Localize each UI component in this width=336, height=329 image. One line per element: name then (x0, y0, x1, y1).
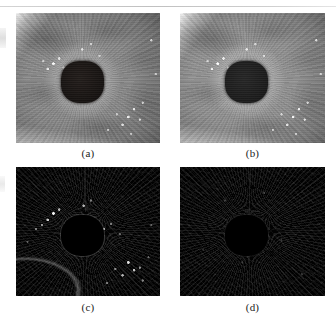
figure-caption-d: (d) (180, 300, 325, 314)
figure-panel-a[interactable] (16, 13, 160, 143)
pupil-region-b (225, 61, 269, 103)
residual-image-c[interactable] (16, 167, 160, 296)
pupil-region-a (61, 61, 104, 103)
figure-panel-c[interactable] (16, 167, 160, 296)
residual-image-d[interactable] (180, 167, 325, 296)
figure-panel-b[interactable] (180, 13, 325, 143)
pupil-region-c (61, 215, 104, 256)
figure-caption-b: (b) (180, 146, 325, 160)
figure-caption-a: (a) (16, 146, 160, 160)
iris-image-b[interactable] (180, 13, 325, 143)
figure-image-grid: (a) (b) (c) (d) (0, 0, 336, 329)
iris-image-a[interactable] (16, 13, 160, 143)
pupil-region-d (225, 215, 269, 256)
figure-caption-c: (c) (16, 300, 160, 314)
figure-panel-d[interactable] (180, 167, 325, 296)
